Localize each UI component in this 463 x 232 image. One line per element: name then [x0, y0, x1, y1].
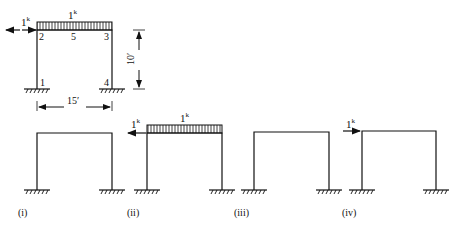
node-2: 2: [39, 31, 44, 42]
case-ii-top-load-label: 1k: [180, 111, 190, 124]
height-dim-label: 10′: [125, 53, 136, 65]
case-ii-lateral-label: 1k: [131, 117, 141, 130]
case-iv-frame: 1k (iv): [342, 117, 449, 219]
case-iii-label: (iii): [234, 207, 249, 219]
fixed-support-right: [99, 89, 125, 93]
main-frame: 1k 1k 2 5 3 1 4 10′: [6, 8, 145, 111]
case-iv-lateral-label: 1k: [346, 117, 356, 130]
node-3: 3: [104, 31, 109, 42]
frame-diagram: 1k 1k 2 5 3 1 4 10′: [0, 0, 463, 232]
case-i-frame: (i): [18, 133, 125, 219]
case-ii-distributed-load: [147, 125, 222, 133]
top-load-label: 1k: [68, 8, 78, 21]
node-4: 4: [104, 77, 109, 88]
distributed-load: [37, 22, 112, 30]
height-dimension: 10′: [125, 30, 145, 89]
case-iii-frame: (iii): [234, 132, 342, 219]
case-iv-label: (iv): [342, 207, 356, 219]
case-i-label: (i): [18, 207, 27, 219]
span-dimension: 15′: [37, 95, 112, 111]
fixed-support-left: [24, 89, 50, 93]
span-dim-label: 15′: [67, 95, 79, 106]
case-ii-label: (ii): [127, 207, 139, 219]
case-ii-frame: 1k 1k (ii): [127, 111, 235, 219]
lateral-load-label: 1k: [21, 15, 31, 28]
node-5: 5: [71, 31, 76, 42]
node-1: 1: [40, 77, 45, 88]
